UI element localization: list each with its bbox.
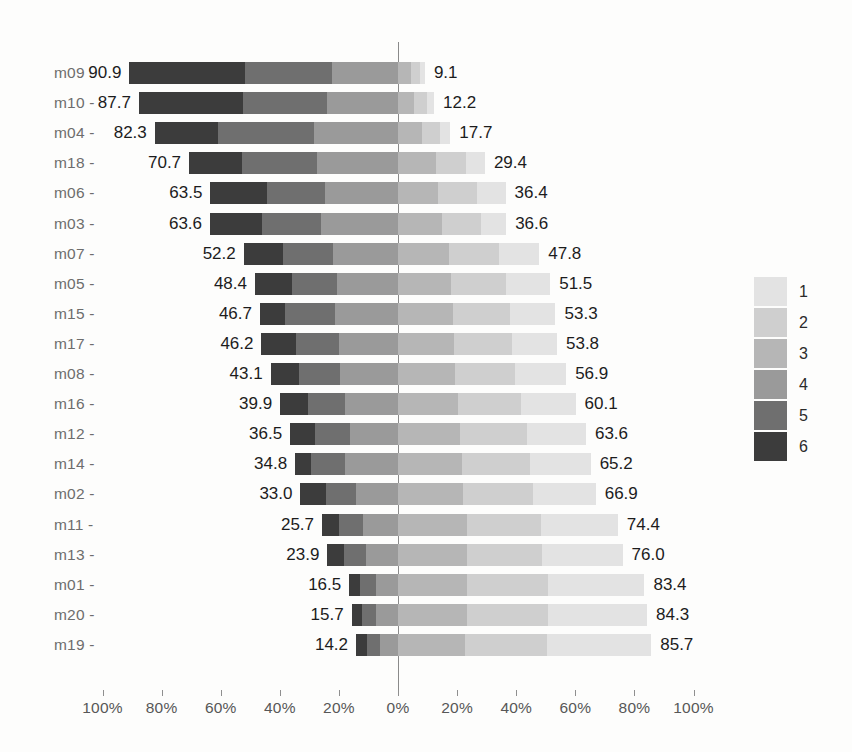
category-axis-label: m11 - [54, 514, 56, 536]
legend-item[interactable]: 2 [754, 308, 840, 338]
bar-segment-level-3 [398, 453, 462, 475]
bar-segment-level-4 [337, 273, 398, 295]
left-total-label: 43.1 [213, 363, 263, 385]
bar-row: m04 -82.317.7 [0, 122, 852, 144]
bar-segment-level-5 [296, 333, 339, 355]
bar-segment-level-2 [422, 122, 440, 144]
bar-segment-level-1 [548, 574, 645, 596]
bar-segment-level-5 [326, 483, 356, 505]
bar-segment-level-4 [345, 393, 398, 415]
right-total-label: 47.8 [548, 243, 604, 265]
legend-item[interactable]: 4 [754, 370, 840, 400]
legend-item[interactable]: 3 [754, 339, 840, 369]
right-total-label: 83.4 [653, 574, 709, 596]
bar-segment-level-1 [499, 243, 539, 265]
legend-swatch-level-1 [754, 277, 787, 306]
bar-segment-level-5 [367, 634, 380, 656]
bar-segment-level-4 [339, 333, 398, 355]
category-axis-label: m04 - [54, 122, 56, 144]
right-total-label: 9.1 [434, 62, 490, 84]
bar-segment-level-4 [376, 574, 398, 596]
category-axis-label: m09 - [54, 62, 56, 84]
bar-row: m10 -87.712.2 [0, 92, 852, 114]
bar-row: m20 -15.784.3 [0, 604, 852, 626]
bar-segment-level-4 [376, 604, 398, 626]
bar-row: m05 -48.451.5 [0, 273, 852, 295]
legend-item[interactable]: 1 [754, 277, 840, 307]
bar-segment-level-4 [321, 213, 398, 235]
bar-segment-level-1 [541, 514, 618, 536]
category-axis-label: m19 - [54, 634, 56, 656]
bar-segment-level-3 [398, 634, 465, 656]
bar-segment-level-2 [463, 483, 533, 505]
legend-swatch-level-4 [754, 370, 787, 399]
right-total-label: 17.7 [459, 122, 515, 144]
left-total-label: 15.7 [294, 604, 344, 626]
bar-segment-level-3 [398, 273, 451, 295]
left-total-label: 87.7 [81, 92, 131, 114]
category-axis-label: m16 - [54, 393, 56, 415]
bar-segment-level-2 [467, 514, 542, 536]
legend-swatch-level-2 [754, 308, 787, 337]
bar-segment-level-1 [506, 273, 550, 295]
bar-segment-level-5 [283, 243, 333, 265]
category-axis-label: m01 - [54, 574, 56, 596]
bar-segment-level-6 [356, 634, 367, 656]
bar-segment-level-3 [398, 393, 458, 415]
bar-segment-level-5 [267, 182, 324, 204]
bar-segment-level-6 [327, 544, 343, 566]
legend-item[interactable]: 5 [754, 401, 840, 431]
right-total-label: 53.8 [566, 333, 622, 355]
bar-segment-level-1 [510, 303, 556, 325]
legend-label: 4 [799, 370, 808, 399]
left-total-label: 63.5 [152, 182, 202, 204]
bar-segment-level-4 [366, 544, 398, 566]
bar-segment-level-6 [129, 62, 244, 84]
bar-segment-level-2 [455, 363, 515, 385]
right-total-label: 74.4 [627, 514, 683, 536]
legend-swatch-level-5 [754, 401, 787, 430]
left-total-label: 14.2 [298, 634, 348, 656]
bar-segment-level-6 [290, 423, 315, 445]
bar-segment-level-4 [350, 423, 398, 445]
bar-segment-level-3 [398, 483, 463, 505]
bar-row: m01 -16.583.4 [0, 574, 852, 596]
bar-segment-level-5 [243, 92, 327, 114]
bar-segment-level-5 [245, 62, 332, 84]
bar-segment-level-3 [398, 243, 449, 265]
left-total-label: 25.7 [264, 514, 314, 536]
bar-segment-level-2 [458, 393, 521, 415]
bar-segment-level-3 [398, 363, 455, 385]
bar-row: m06 -63.536.4 [0, 182, 852, 204]
bar-row: m08 -43.156.9 [0, 363, 852, 385]
bar-segment-level-4 [380, 634, 398, 656]
category-axis-label: m13 - [54, 544, 56, 566]
bar-row: m07 -52.247.8 [0, 243, 852, 265]
bar-segment-level-6 [300, 483, 326, 505]
bar-segment-level-2 [462, 453, 530, 475]
right-total-label: 53.3 [565, 303, 621, 325]
bar-segment-level-3 [398, 514, 467, 536]
bar-segment-level-1 [440, 122, 450, 144]
bar-segment-level-6 [189, 152, 242, 174]
legend-item[interactable]: 6 [754, 432, 840, 462]
bar-row: m18 -70.729.4 [0, 152, 852, 174]
bar-segment-level-2 [414, 92, 427, 114]
bar-segment-level-4 [345, 453, 398, 475]
bar-segment-level-2 [467, 574, 547, 596]
bar-segment-level-6 [210, 213, 262, 235]
bar-segment-level-3 [398, 122, 422, 144]
bar-segment-level-6 [271, 363, 299, 385]
left-total-label: 39.9 [222, 393, 272, 415]
left-total-label: 52.2 [186, 243, 236, 265]
bar-segment-level-5 [262, 213, 321, 235]
bar-row: m14 -34.865.2 [0, 453, 852, 475]
category-axis-label: m10 - [54, 92, 56, 114]
bar-segment-level-2 [465, 634, 547, 656]
bar-segment-level-1 [530, 453, 591, 475]
bar-segment-level-6 [139, 92, 244, 114]
right-total-label: 29.4 [494, 152, 550, 174]
right-total-label: 60.1 [585, 393, 641, 415]
left-total-label: 82.3 [97, 122, 147, 144]
bar-row: m19 -14.285.7 [0, 634, 852, 656]
